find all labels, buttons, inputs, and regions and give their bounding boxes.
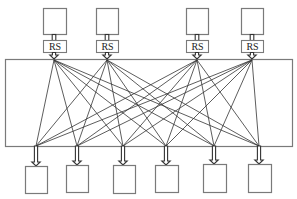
link-line [77, 60, 252, 146]
link-line [252, 60, 259, 146]
destination-unit [249, 146, 272, 193]
destination-box [114, 166, 136, 194]
link-line [36, 60, 197, 146]
destination-unit [114, 146, 136, 194]
link-line [54, 60, 77, 146]
rs-label: RS [246, 41, 258, 52]
connector [105, 35, 109, 41]
destination-unit [67, 146, 89, 193]
link-line [197, 60, 214, 146]
crossbar-diagram: RSRSRSRS [0, 0, 297, 199]
destination-box [204, 165, 227, 193]
down-arrow-icon [32, 146, 40, 166]
destination-box [249, 165, 272, 193]
down-arrow-icon [255, 146, 263, 164]
link-line [54, 60, 166, 146]
rs-output-arrow-icon [248, 53, 256, 60]
down-arrow-icon [210, 146, 218, 164]
source-units: RSRSRSRS [44, 9, 264, 60]
destination-unit [156, 146, 179, 193]
link-line [54, 60, 123, 146]
destination-unit [204, 146, 227, 193]
link-line [36, 60, 107, 146]
source-unit: RS [187, 9, 209, 60]
source-box [44, 9, 67, 35]
connector [195, 35, 199, 41]
down-arrow-icon [73, 146, 81, 165]
source-box [187, 9, 209, 35]
interconnect-links [36, 60, 259, 146]
destination-unit [26, 146, 48, 194]
down-arrow-icon [162, 146, 170, 165]
destination-units [26, 146, 272, 194]
link-line [36, 60, 54, 146]
rs-output-arrow-icon [50, 53, 58, 60]
source-unit: RS [242, 9, 264, 60]
down-arrow-icon [119, 146, 127, 165]
rs-label: RS [101, 41, 113, 52]
destination-box [156, 166, 179, 193]
connector [250, 35, 254, 41]
source-unit: RS [44, 9, 67, 60]
source-box [242, 9, 264, 35]
link-line [107, 60, 259, 146]
source-box [97, 9, 119, 35]
rs-label: RS [49, 41, 61, 52]
destination-box [67, 166, 89, 193]
connector [52, 35, 56, 41]
source-unit: RS [97, 9, 119, 60]
rs-output-arrow-icon [193, 53, 201, 60]
rs-output-arrow-icon [103, 53, 111, 60]
link-line [166, 60, 197, 146]
rs-label: RS [191, 41, 203, 52]
destination-box [26, 167, 48, 194]
